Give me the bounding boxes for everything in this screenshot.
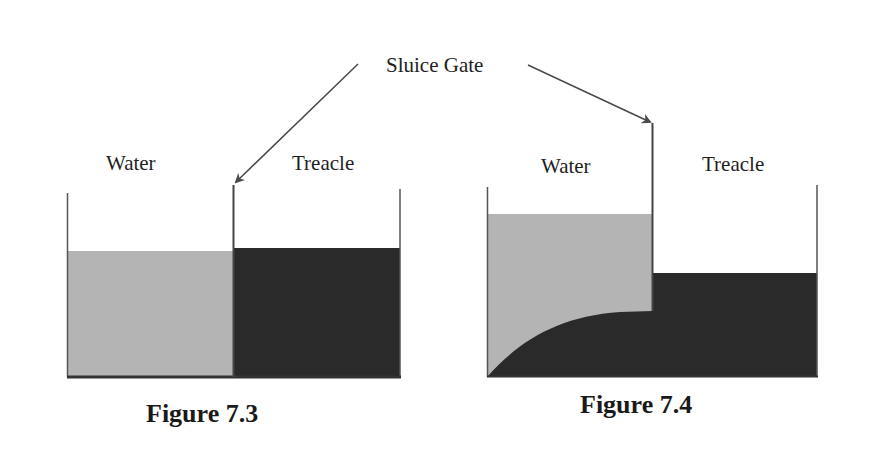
water-label-fig-7-3: Water: [106, 153, 156, 174]
treacle-fill: [233, 248, 400, 377]
sluice-gate-diagram: Sluice Gate Water Treacle Figure 7.3 Wat…: [0, 0, 873, 452]
water-fill: [68, 251, 233, 376]
figure-7-3-caption: Figure 7.3: [146, 401, 258, 427]
sluice-gate-label: Sluice Gate: [386, 55, 483, 76]
figure-7-4-tank: [487, 123, 818, 377]
treacle-label-fig-7-3: Treacle: [292, 153, 354, 174]
figure-7-3-tank: [67, 185, 401, 378]
figure-7-4-caption: Figure 7.4: [580, 392, 692, 418]
water-label-fig-7-4: Water: [541, 156, 591, 177]
treacle-label-fig-7-4: Treacle: [702, 154, 764, 175]
arrow-to-gate-7-4: [528, 65, 650, 122]
